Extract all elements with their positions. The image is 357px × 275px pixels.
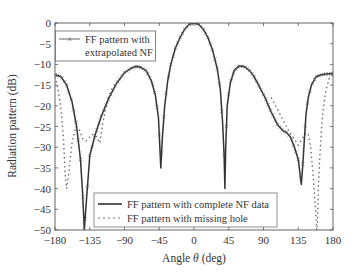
x-axis-label: Angle θ (deg) xyxy=(162,252,226,265)
legend-entry-missing-hole: FF pattern with missing hole xyxy=(127,213,248,224)
missing-hole-curve xyxy=(271,75,333,230)
x-tick-label: 180 xyxy=(325,234,342,246)
y-tick-label: −40 xyxy=(34,183,52,195)
y-tick-label: −15 xyxy=(34,79,52,91)
legend-top-line1: FF pattern with xyxy=(85,34,150,45)
x-tick-label: 135 xyxy=(290,234,307,246)
y-tick-label: −20 xyxy=(34,100,52,112)
y-axis-label: Radiation pattern (dB) xyxy=(6,74,19,178)
x-tick-label: −90 xyxy=(116,234,134,246)
y-tick-label: −5 xyxy=(39,38,51,50)
y-tick-label: −35 xyxy=(34,162,52,174)
x-tick-label: 90 xyxy=(258,234,270,246)
y-tick-label: −45 xyxy=(34,203,52,215)
legend-top: × FF pattern with extrapolated NF xyxy=(56,31,156,61)
legend-entry-complete: FF pattern with complete NF data xyxy=(127,199,269,210)
x-marker-icon: × xyxy=(67,34,72,44)
legend-top-line2: extrapolated NF xyxy=(85,47,153,58)
x-tick-label: −45 xyxy=(151,234,169,246)
x-tick-label: −180 xyxy=(44,234,67,246)
x-tick-label: 45 xyxy=(223,234,235,246)
y-tick-label: −10 xyxy=(34,58,52,70)
legend-bottom: FF pattern with complete NF data FF patt… xyxy=(94,193,277,227)
x-tick-label: 0 xyxy=(191,234,197,246)
y-tick-label: −25 xyxy=(34,121,52,133)
y-tick-label: 0 xyxy=(46,17,52,29)
x-tick-label: −135 xyxy=(78,234,101,246)
radiation-pattern-chart: 0−5−10−15−20−25−30−35−40−45−50 −180−135−… xyxy=(0,0,357,275)
y-tick-label: −30 xyxy=(34,141,52,153)
missing-hole-curve xyxy=(55,77,117,189)
